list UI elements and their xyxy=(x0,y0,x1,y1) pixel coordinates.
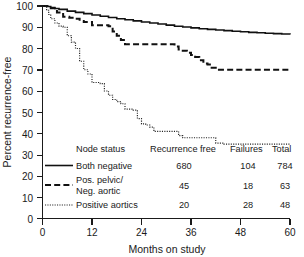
y-tick-label-50: 50 xyxy=(22,108,34,119)
chart-canvas: 100 90 80 70 60 50 40 30 20 10 0 0 12 24… xyxy=(0,0,304,257)
legend-row-pos-pelvic-neg-aortic: Pos. pelvic/ Neg. aortic 45 18 63 xyxy=(76,175,290,196)
series-line-positive-aortics xyxy=(43,6,291,144)
y-tick-label-20: 20 xyxy=(22,171,34,182)
x-axis-title: Months on study xyxy=(128,243,206,255)
legend-label-pos-pelvic-line2: Neg. aortic xyxy=(76,186,121,196)
legend-value-recurrence-free-1: 45 xyxy=(179,181,189,191)
y-tick-label-0: 0 xyxy=(27,214,33,225)
legend-header-recurrence-free: Recurrence free xyxy=(150,144,216,154)
legend-label-pos-pelvic-line1: Pos. pelvic/ xyxy=(76,175,123,185)
y-tick-label-30: 30 xyxy=(22,150,34,161)
legend-header-node-status: Node status xyxy=(76,144,125,154)
legend-label-both-negative: Both negative xyxy=(76,161,132,171)
kaplan-meier-figure: 100 90 80 70 60 50 40 30 20 10 0 0 12 24… xyxy=(0,0,304,257)
legend-value-recurrence-free-0: 680 xyxy=(176,161,191,171)
legend-value-total-0: 784 xyxy=(277,161,292,171)
y-tick-label-90: 90 xyxy=(22,22,34,33)
y-tick-label-40: 40 xyxy=(22,129,34,140)
x-tick-marks xyxy=(43,219,291,225)
y-tick-marks xyxy=(37,6,43,219)
y-tick-label-60: 60 xyxy=(22,86,34,97)
legend-value-failures-2: 28 xyxy=(243,200,253,210)
x-tick-label-12: 12 xyxy=(86,227,98,238)
y-tick-label-100: 100 xyxy=(16,1,33,12)
legend-label-positive-aortics: Positive aortics xyxy=(76,200,138,210)
legend-value-total-2: 48 xyxy=(280,200,290,210)
legend-header-failures: Failures xyxy=(230,144,263,154)
legend-header-row: Node status Recurrence free Failures Tot… xyxy=(76,144,291,154)
legend-value-failures-1: 18 xyxy=(243,181,253,191)
legend-row-both-negative: Both negative 680 104 784 xyxy=(76,161,293,171)
y-axis-title: Percent recurrence-free xyxy=(1,56,13,167)
x-tick-label-24: 24 xyxy=(136,227,148,238)
x-tick-label-48: 48 xyxy=(235,227,247,238)
legend-line-samples xyxy=(45,166,73,206)
legend-value-total-1: 63 xyxy=(280,181,290,191)
y-tick-label-10: 10 xyxy=(22,193,34,204)
legend-header-total: Total xyxy=(272,144,291,154)
legend-value-failures-0: 104 xyxy=(240,161,255,171)
legend-row-positive-aortics: Positive aortics 20 28 48 xyxy=(76,200,290,210)
y-tick-label-70: 70 xyxy=(22,65,34,76)
x-tick-label-36: 36 xyxy=(185,227,197,238)
x-tick-label-0: 0 xyxy=(40,227,46,238)
y-tick-label-80: 80 xyxy=(22,44,34,55)
legend-value-recurrence-free-2: 20 xyxy=(179,200,189,210)
x-tick-label-60: 60 xyxy=(284,227,296,238)
